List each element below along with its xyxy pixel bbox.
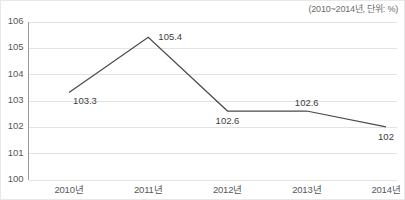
data-point-label: 103.3 bbox=[73, 95, 97, 106]
line-chart-figure: (2010~2014년, 단위: %) 10010110210310410510… bbox=[0, 0, 405, 200]
data-point-label: 102 bbox=[378, 131, 394, 142]
data-point-label: 102.6 bbox=[295, 97, 319, 108]
y-tick-label: 106 bbox=[8, 15, 24, 26]
y-axis-tick-labels: 100101102103104105106 bbox=[8, 15, 24, 184]
chart-plot-svg: 100101102103104105106 2010년2011년2012년201… bbox=[1, 1, 405, 200]
data-series-line bbox=[69, 37, 386, 127]
y-tick-label: 102 bbox=[8, 120, 24, 131]
data-point-labels: 103.3105.4102.6102.6102 bbox=[73, 31, 394, 142]
y-tick-label: 100 bbox=[8, 173, 24, 184]
x-tick-label: 2010년 bbox=[54, 184, 83, 195]
data-point-label: 102.6 bbox=[216, 115, 240, 126]
y-tick-label: 101 bbox=[8, 147, 24, 158]
y-tick-label: 104 bbox=[8, 68, 24, 79]
y-tick-label: 105 bbox=[8, 41, 24, 52]
x-tick-label: 2014년 bbox=[371, 184, 400, 195]
x-axis-tick-labels: 2010년2011년2012년2013년2014년 bbox=[54, 184, 400, 195]
x-tick-label: 2013년 bbox=[292, 184, 321, 195]
x-tick-label: 2012년 bbox=[213, 184, 242, 195]
x-tick-label: 2011년 bbox=[134, 184, 162, 195]
data-point-label: 105.4 bbox=[158, 31, 182, 42]
series-polyline bbox=[69, 37, 386, 127]
y-tick-label: 103 bbox=[8, 94, 24, 105]
